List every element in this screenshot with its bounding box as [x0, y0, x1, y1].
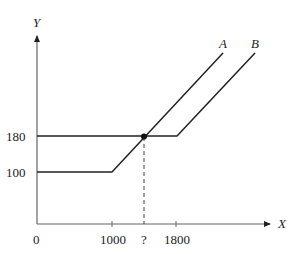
x-axis-label: X [277, 216, 287, 231]
x-tick-1800: 1800 [164, 232, 190, 247]
line-b [37, 53, 255, 136]
intersection-point [141, 134, 147, 140]
x-tick-1000: 1000 [100, 232, 126, 247]
line-a-label: A [218, 36, 227, 51]
cost-lines-diagram: Y X 0 180 100 1000 ? 1800 A B [0, 0, 296, 254]
x-tick-unknown: ? [141, 232, 147, 247]
y-axis-label: Y [33, 15, 42, 30]
origin-label: 0 [33, 232, 40, 247]
y-tick-100: 100 [6, 165, 26, 180]
line-b-label: B [251, 36, 259, 51]
y-tick-180: 180 [6, 129, 26, 144]
line-a [37, 53, 223, 172]
